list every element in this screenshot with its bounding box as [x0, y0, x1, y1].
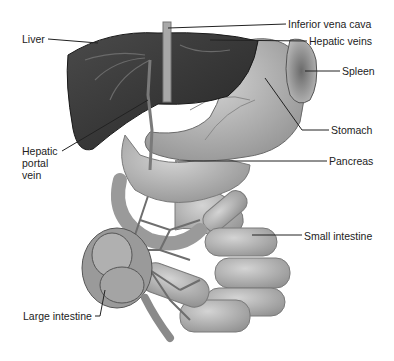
label-liver: Liver	[22, 33, 45, 45]
label-small-intestine: Small intestine	[304, 230, 372, 242]
label-hepatic-portal-vein-line3: vein	[22, 169, 58, 181]
label-hepatic-portal-vein-line1: Hepatic	[22, 145, 58, 157]
label-inferior-vena-cava: Inferior vena cava	[288, 18, 371, 30]
label-spleen: Spleen	[342, 65, 375, 77]
anatomy-diagram	[0, 0, 394, 361]
label-hepatic-veins: Hepatic veins	[309, 35, 372, 47]
label-hepatic-portal-vein-line2: portal	[22, 157, 58, 169]
label-pancreas: Pancreas	[329, 155, 373, 167]
label-hepatic-portal-vein: Hepatic portal vein	[22, 145, 58, 181]
label-stomach: Stomach	[331, 124, 372, 136]
label-large-intestine: Large intestine	[23, 310, 92, 322]
